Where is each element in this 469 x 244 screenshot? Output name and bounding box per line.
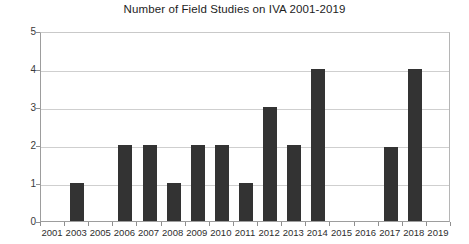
x-tick-mark [64, 222, 65, 226]
x-tick-mark [329, 222, 330, 226]
x-tick-mark [88, 222, 89, 226]
x-tick-mark [450, 222, 451, 226]
x-tick-mark [40, 222, 41, 226]
x-tick-label: 2006 [114, 227, 135, 238]
x-tick-mark [112, 222, 113, 226]
x-tick-label: 2010 [210, 227, 231, 238]
x-tick-label: 2009 [186, 227, 207, 238]
x-tick-label: 2018 [403, 227, 424, 238]
x-tick-mark [378, 222, 379, 226]
x-tick-mark [281, 222, 282, 226]
plot-area [40, 32, 450, 222]
x-tick-label: 2007 [138, 227, 159, 238]
x-tick-mark [402, 222, 403, 226]
bar [408, 69, 422, 221]
x-tick-mark [136, 222, 137, 226]
bar [191, 145, 205, 221]
x-tick-label: 2005 [90, 227, 111, 238]
x-tick-mark [354, 222, 355, 226]
x-tick-mark [426, 222, 427, 226]
x-tick-label: 2015 [331, 227, 352, 238]
bars-layer [41, 33, 449, 221]
bar [311, 69, 325, 221]
x-tick-label: 2008 [162, 227, 183, 238]
x-tick-label: 2011 [235, 227, 255, 238]
bar [263, 107, 277, 221]
bar [70, 183, 84, 221]
bar [167, 183, 181, 221]
x-tick-label: 2016 [355, 227, 376, 238]
chart-title: Number of Field Studies on IVA 2001-2019 [0, 3, 469, 15]
x-tick-mark [233, 222, 234, 226]
x-tick-label: 2012 [259, 227, 280, 238]
x-tick-label: 2001 [41, 227, 62, 238]
bar [118, 145, 132, 221]
bar-chart: Number of Field Studies on IVA 2001-2019… [0, 0, 469, 244]
x-tick-label: 2019 [427, 227, 448, 238]
x-tick-mark [185, 222, 186, 226]
x-tick-mark [257, 222, 258, 226]
bar [287, 145, 301, 221]
bar [239, 183, 253, 221]
x-tick-mark [209, 222, 210, 226]
x-tick-label: 2017 [379, 227, 400, 238]
x-tick-label: 2003 [66, 227, 87, 238]
bar [143, 145, 157, 221]
x-tick-label: 2014 [307, 227, 328, 238]
x-tick-mark [161, 222, 162, 226]
bar [215, 145, 229, 221]
x-tick-mark [305, 222, 306, 226]
x-axis: 2001200320052006200720082009201020112012… [40, 222, 450, 244]
x-tick-label: 2013 [283, 227, 304, 238]
y-axis-ticks [0, 32, 44, 222]
bar [384, 147, 398, 221]
